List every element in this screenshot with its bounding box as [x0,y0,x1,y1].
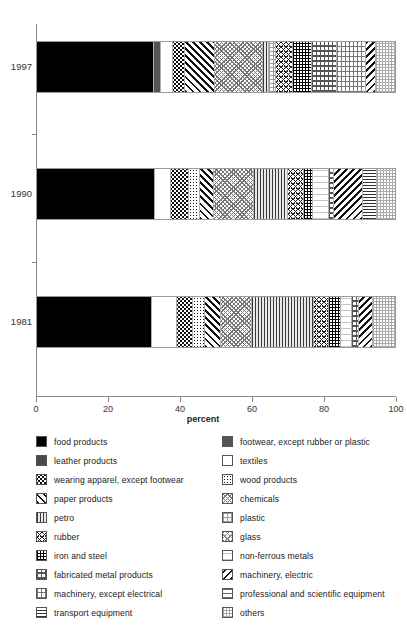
legend-item[interactable]: fabricated metal products [36,565,211,584]
legend-label: fabricated metal products [54,570,153,580]
x-axis-line [36,396,396,397]
legend-label: paper products [54,494,113,504]
bar-segment-textiles [155,169,171,219]
legend-label: rubber [54,532,79,542]
stacked-bar-1997 [36,41,396,93]
x-tick-label: 40 [175,404,185,414]
bar-segment-machelec [359,297,373,347]
legend-item[interactable]: non-ferrous metals [222,546,407,565]
legend-item[interactable]: transport equipment [36,603,211,622]
legend-item[interactable]: iron and steel [36,546,211,565]
legend-swatch-others-icon [222,607,233,618]
legend-swatch-iron-icon [36,550,47,561]
legend-label: food products [54,437,107,447]
bar-segment-fabmetal [352,297,359,347]
legend-swatch-food-icon [36,436,47,447]
legend-swatch-nonferrous-icon [222,550,233,561]
bar-segment-machelec [334,169,363,219]
x-tick-label: 20 [103,404,113,414]
legend-swatch-wood-icon [222,474,233,485]
legend-item[interactable]: textiles [222,451,407,470]
legend-item[interactable]: others [222,603,407,622]
legend-label: machinery, except electrical [54,589,162,599]
bar-segment-others [377,169,395,219]
legend-item[interactable]: petro [36,508,211,527]
bar-segment-wood [189,169,200,219]
bar-segment-others [376,42,395,92]
bar-segment-paper [205,297,221,347]
legend-item[interactable]: plastic [222,508,407,527]
bar-segment-footwear [154,42,161,92]
legend-label: wearing apparel, except footwear [54,475,184,485]
legend-label: non-ferrous metals [240,551,313,561]
legend-swatch-paper-icon [36,493,47,504]
legend-label: chemicals [240,494,279,504]
legend-item[interactable]: machinery, electric [222,565,407,584]
bar-segment-rubber [288,169,304,219]
bar-segment-food [37,297,152,347]
x-tick-label: 0 [33,404,38,414]
legend-item[interactable]: wearing apparel, except footwear [36,470,211,489]
legend: food productsleather productswearing app… [0,432,407,637]
legend-label: iron and steel [54,551,107,561]
bar-segment-chem [221,297,251,347]
legend-item[interactable]: rubber [36,527,211,546]
bar-segment-apparel [173,42,185,92]
bar-segment-food [37,169,155,219]
legend-label: professional and scientific equipment [240,589,385,599]
legend-column-left: food productsleather productswearing app… [36,432,211,622]
x-tick-label: 60 [247,404,257,414]
x-tick [324,397,325,402]
bar-segment-chem [215,42,263,92]
y-tick [32,134,36,135]
legend-swatch-glass-icon [222,531,233,542]
legend-item[interactable]: machinery, except electrical [36,584,211,603]
legend-swatch-textiles-icon [222,455,233,466]
bar-segment-iron [304,169,313,219]
bar-segment-transport [363,169,377,219]
plot-area: 020406080100 199719901981 percent [0,0,407,420]
legend-label: others [240,608,265,618]
bar-segment-chem [214,169,253,219]
bar-segment-iron [329,297,342,347]
bar-segment-iron [293,42,313,92]
legend-column-right: footwear, except rubber or plastictextil… [222,432,407,622]
bar-segment-wood [193,297,206,347]
legend-swatch-leather-icon [36,455,47,466]
legend-label: glass [240,532,261,542]
x-tick [180,397,181,402]
legend-swatch-petro-icon [36,512,47,523]
y-axis-label-1990: 1990 [4,188,32,199]
legend-swatch-fabmetal-icon [36,569,47,580]
x-tick [252,397,253,402]
bar-segment-textiles [152,297,177,347]
x-axis-title: percent [187,414,220,424]
legend-item[interactable]: footwear, except rubber or plastic [222,432,407,451]
y-tick [32,262,36,263]
legend-item[interactable]: professional and scientific equipment [222,584,407,603]
bar-segment-paper [200,169,214,219]
legend-item[interactable]: food products [36,432,211,451]
legend-label: machinery, electric [240,570,313,580]
legend-item[interactable]: paper products [36,489,211,508]
legend-item[interactable]: wood products [222,470,407,489]
bar-segment-nonferrous [313,169,329,219]
legend-swatch-footwear-icon [222,436,233,447]
bar-segment-machother [337,42,366,92]
legend-item[interactable]: chemicals [222,489,407,508]
stacked-bar-1990 [36,168,396,220]
bar-segment-petro [254,169,288,219]
y-axis-label-1981: 1981 [4,316,32,327]
legend-label: petro [54,513,74,523]
legend-swatch-plastic-icon [222,512,233,523]
bar-segment-machelec [366,42,376,92]
legend-item[interactable]: leather products [36,451,211,470]
legend-swatch-apparel-icon [36,474,47,485]
bar-segment-petro [252,297,315,347]
legend-item[interactable]: glass [222,527,407,546]
bar-segment-fabmetal [312,42,337,92]
bar-segment-apparel [171,169,189,219]
legend-swatch-prof-icon [222,588,233,599]
legend-label: transport equipment [54,608,132,618]
legend-swatch-machelec-icon [222,569,233,580]
